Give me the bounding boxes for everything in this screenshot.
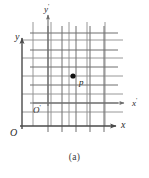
- x-axis-label: x: [121, 120, 125, 130]
- figure-caption: (a): [0, 152, 149, 162]
- y-prime-tick-mark: ': [48, 2, 49, 10]
- point-p-label: p: [79, 77, 84, 87]
- x-prime-tick-mark: ': [136, 96, 137, 104]
- figure-container: y y' x x' O O' p (a): [0, 0, 149, 178]
- x-prime-axis-label: x': [132, 97, 137, 108]
- origin-prime-tick-mark: ': [40, 103, 41, 111]
- origin-o-label: O: [10, 128, 17, 138]
- y-prime-axis-label: y': [44, 3, 49, 14]
- point-p-marker: [70, 73, 75, 78]
- origin-o-prime-label: O': [33, 104, 41, 115]
- y-axis-label: y: [15, 32, 19, 42]
